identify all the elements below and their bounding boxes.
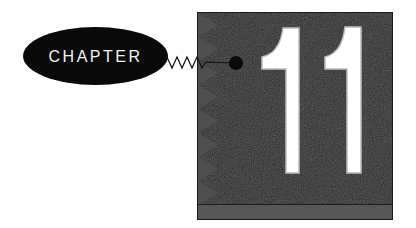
zigzag-connector-icon	[0, 0, 416, 228]
connector-dot-icon	[229, 56, 243, 70]
